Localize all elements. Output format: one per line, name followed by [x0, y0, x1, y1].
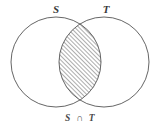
intersection-region: [59, 17, 149, 107]
caption: S ∩ T: [65, 113, 96, 123]
set-t-label: T: [103, 3, 111, 15]
venn-diagram-figure: S T S ∩ T: [0, 0, 160, 125]
caption-left-set: S: [65, 113, 71, 123]
venn-diagram-canvas: S T S ∩ T: [0, 0, 160, 125]
caption-right-set: T: [89, 113, 96, 123]
intersection-operator-symbol: ∩: [76, 113, 83, 123]
set-s-label: S: [53, 3, 59, 15]
